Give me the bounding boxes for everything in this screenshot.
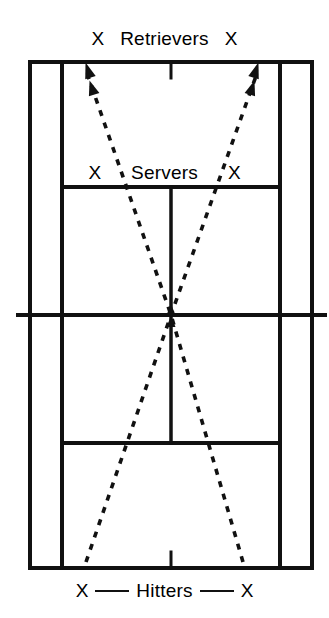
retrievers-label: Retrievers bbox=[120, 28, 209, 50]
retrievers-label-row: X Retrievers X bbox=[0, 26, 329, 52]
servers-right-x-marker: X bbox=[228, 162, 241, 184]
servers-label-row: X Servers X bbox=[0, 160, 329, 186]
hitters-left-x-marker: X bbox=[76, 580, 89, 602]
servers-left-x-marker: X bbox=[88, 162, 101, 184]
tennis-court-diagram: X Retrievers X X Servers X X Hitters X bbox=[0, 0, 329, 618]
arrowhead-upper-right-second bbox=[245, 79, 260, 97]
arrowhead-upper-left-second bbox=[84, 79, 99, 97]
hitters-right-x-marker: X bbox=[241, 580, 254, 602]
hitters-label-row: X Hitters X bbox=[0, 578, 329, 604]
retrievers-right-x-marker: X bbox=[225, 28, 238, 50]
ball-path-right-to-left bbox=[88, 76, 243, 562]
hitters-right-connector-line bbox=[200, 590, 234, 592]
hitters-label: Hitters bbox=[136, 580, 192, 602]
servers-label: Servers bbox=[131, 162, 198, 184]
retrievers-left-x-marker: X bbox=[92, 28, 105, 50]
hitters-left-connector-line bbox=[95, 590, 129, 592]
court-lines-svg bbox=[0, 0, 329, 618]
